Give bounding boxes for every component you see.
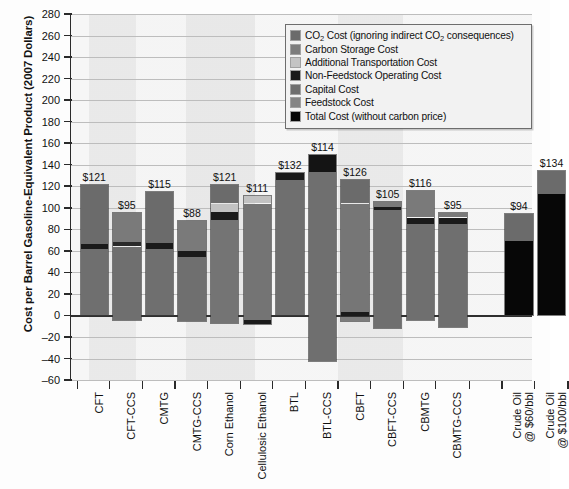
y-tick [64,35,72,37]
bar-outline [439,213,467,327]
bar-cft-ccs[interactable]: $95 [113,14,141,380]
x-tick [469,381,470,389]
y-tick [64,56,72,58]
legend-swatch-icon [291,45,300,54]
legend-swatch-icon [291,31,300,40]
y-tick [64,358,72,360]
y-tick-label: –40 [42,353,60,365]
x-tick [142,381,143,389]
legend-label: Feedstock Cost [305,97,374,108]
x-tick-label: CBFT-CCS [386,392,398,447]
x-tick-label: CBFT [354,392,366,421]
x-tick-label: BTL [288,392,300,412]
y-tick-label: –60 [42,374,60,386]
bar-value-label: $115 [148,178,171,190]
x-tick [567,381,568,389]
x-tick-label: CFT [93,392,105,413]
x-tick-label: Cellulosic Ethanol [256,392,268,479]
y-tick [64,207,72,209]
bar-value-label: $134 [540,157,563,169]
legend-item: Feedstock Cost [291,96,526,109]
x-tick [109,381,110,389]
bar-outline [407,191,435,320]
y-tick-label: 160 [42,137,60,149]
x-tick-label: BTL-CCS [321,392,333,439]
bar-cellulosic-ethanol[interactable]: $111 [244,14,272,380]
bar-value-label: $95 [118,199,136,211]
bar-outline [374,202,402,328]
x-tick [272,381,273,389]
bar-cmtg-ccs[interactable]: $88 [178,14,206,380]
bar-value-label: $95 [444,199,462,211]
x-tick [240,381,241,389]
bar-outline [178,221,206,321]
y-tick-label: 280 [42,8,60,20]
bar-value-label: $114 [311,141,334,153]
x-tick [501,381,502,389]
x-tick [77,381,78,389]
y-tick [64,315,72,317]
y-tick-label: –20 [42,331,60,343]
y-tick [64,229,72,231]
y-tick-label: 140 [42,159,60,171]
y-tick [64,293,72,295]
x-tick-label: Corn Ethanol [223,392,235,456]
legend-swatch-icon [291,98,300,107]
bar-cmtg[interactable]: $115 [146,14,174,380]
legend-item: Carbon Storage Cost [291,42,526,55]
legend-item: Total Cost (without carbon price) [291,109,526,122]
y-tick [64,121,72,123]
y-tick [64,78,72,80]
bar-outline [81,185,109,315]
legend-item: CO2 Cost (ignoring indirect CO2 conseque… [291,29,526,42]
x-tick-label: Crude Oil@ $100/bbl [545,392,568,448]
bar-outline [309,155,337,361]
legend-label: Total Cost (without carbon price) [305,111,446,122]
x-tick-label: CMTG [158,392,170,424]
y-tick-label: 240 [42,51,60,63]
y-tick-label: 100 [42,202,60,214]
y-tick-label: 200 [42,94,60,106]
x-tick [403,381,404,389]
bar-value-label: $105 [376,188,399,200]
legend-item: Non-Feedstock Operating Cost [291,69,526,82]
bar-value-label: $126 [343,166,366,178]
legend-swatch-icon [291,58,300,67]
y-tick [64,336,72,338]
legend-label: Carbon Storage Cost [305,44,398,55]
y-axis-title: Cost per Barrel Gasoline-Equivalent Prod… [22,0,34,354]
bar-value-label: $121 [83,171,106,183]
y-tick [64,142,72,144]
y-tick-label: 180 [42,116,60,128]
bar-cft[interactable]: $121 [81,14,109,380]
x-tick [305,381,306,389]
bar-crude-oil-100-bbl[interactable]: $134 [538,14,566,380]
y-tick [64,99,72,101]
y-tick [64,272,72,274]
y-tick-label: 20 [48,288,60,300]
legend-swatch-icon [291,85,300,94]
x-tick [435,381,436,389]
y-tick-label: 0 [54,309,60,321]
x-tick [370,381,371,389]
x-tick-label: CMTG-CCS [191,392,203,451]
y-tick-label: 60 [48,245,60,257]
x-tick [207,381,208,389]
y-tick-label: 220 [42,73,60,85]
legend-item: Additional Transportation Cost [291,56,526,69]
bar-outline [341,180,369,321]
bar-value-label: $94 [510,200,528,212]
y-tick-label: 120 [42,180,60,192]
bar-corn-ethanol[interactable]: $121 [211,14,239,380]
x-tick-label: CFT-CCS [125,392,137,440]
legend-swatch-icon [291,71,300,80]
x-tick-label: CBMTG [419,392,431,432]
x-axis: CFTCFT-CCSCMTGCMTG-CCSCorn EthanolCellul… [70,381,531,489]
y-tick [64,185,72,187]
y-tick-label: 260 [42,30,60,42]
x-tick [174,381,175,389]
bar-outline [211,185,239,323]
x-tick [534,381,535,389]
x-tick [337,381,338,389]
